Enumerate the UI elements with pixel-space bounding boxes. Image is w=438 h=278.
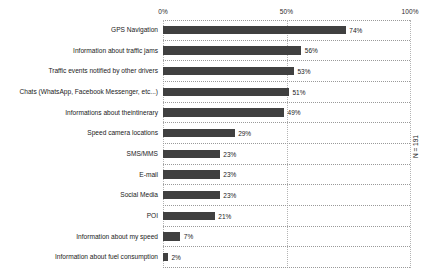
category-label: Speed camera locations (87, 130, 158, 137)
bar-row: 2% (163, 247, 410, 268)
bar-value-label: 53% (297, 69, 310, 76)
bar-value-label: 51% (292, 90, 305, 97)
bar (163, 129, 235, 138)
category-label: GPS Navigation (111, 27, 158, 34)
bar-value-label: 74% (349, 28, 362, 35)
x-tick-label-0: 0% (158, 8, 168, 15)
bar (163, 67, 294, 76)
bar-value-label: 23% (223, 172, 236, 179)
bar (163, 170, 220, 179)
bar-row: 29% (163, 123, 410, 144)
x-tick-label-1: 50% (280, 8, 293, 15)
category-label: Social Media (120, 192, 158, 199)
bar-value-label: 7% (184, 234, 193, 241)
bar-chart: 0%50%100% 74%56%53%51%49%29%23%23%23%21%… (0, 0, 438, 278)
bar-value-label: 49% (288, 110, 301, 117)
bar (163, 191, 220, 200)
category-label: E-mail (139, 172, 158, 179)
category-label: Traffic events notified by other drivers (48, 68, 158, 75)
bar-row: 7% (163, 227, 410, 248)
category-label: Informations about theintinerary (65, 110, 158, 117)
plot-area: 74%56%53%51%49%29%23%23%23%21%7%2% (163, 20, 410, 268)
x-axis-tick-labels: 0%50%100% (0, 8, 438, 20)
bar-value-label: 23% (223, 152, 236, 159)
category-label: SMS/MMS (126, 151, 158, 158)
bar-row: 49% (163, 103, 410, 124)
bar-rows: 74%56%53%51%49%29%23%23%23%21%7%2% (163, 20, 410, 268)
category-label: Information about my speed (76, 234, 158, 241)
bar-row: 23% (163, 185, 410, 206)
bar-row: 51% (163, 82, 410, 103)
bar-value-label: 56% (305, 48, 318, 55)
bar-row: 21% (163, 206, 410, 227)
bar (163, 108, 284, 117)
category-label: Chats (WhatsApp, Facebook Messenger, etc… (19, 89, 158, 96)
bar (163, 253, 168, 262)
category-label: Information about fuel consumption (55, 254, 158, 261)
bar-value-label: 2% (171, 255, 180, 262)
category-label: POI (147, 213, 158, 220)
bar-value-label: 21% (218, 214, 231, 221)
bar (163, 46, 301, 55)
bar (163, 212, 215, 221)
bar-row: 53% (163, 61, 410, 82)
sample-size-annotation: N = 191 (412, 135, 419, 158)
bar (163, 88, 289, 97)
bar (163, 232, 180, 241)
category-axis-labels: GPS NavigationInformation about traffic … (0, 20, 158, 268)
bar-row: 74% (163, 20, 410, 41)
vertical-gridline-2 (410, 20, 411, 268)
bar (163, 150, 220, 159)
x-tick-label-2: 100% (401, 8, 418, 15)
bar (163, 26, 346, 35)
bar-value-label: 29% (238, 131, 251, 138)
bar-row: 56% (163, 41, 410, 62)
bar-row: 23% (163, 144, 410, 165)
category-label: Information about traffic jams (73, 48, 158, 55)
bar-value-label: 23% (223, 193, 236, 200)
bar-row: 23% (163, 165, 410, 186)
